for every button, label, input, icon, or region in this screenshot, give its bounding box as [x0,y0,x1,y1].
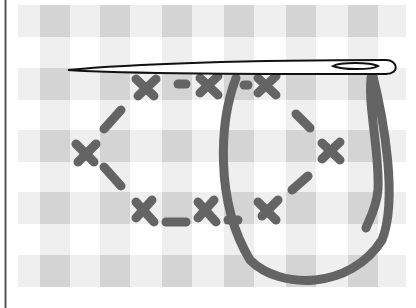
cross-stitch-illustration [0,0,416,308]
